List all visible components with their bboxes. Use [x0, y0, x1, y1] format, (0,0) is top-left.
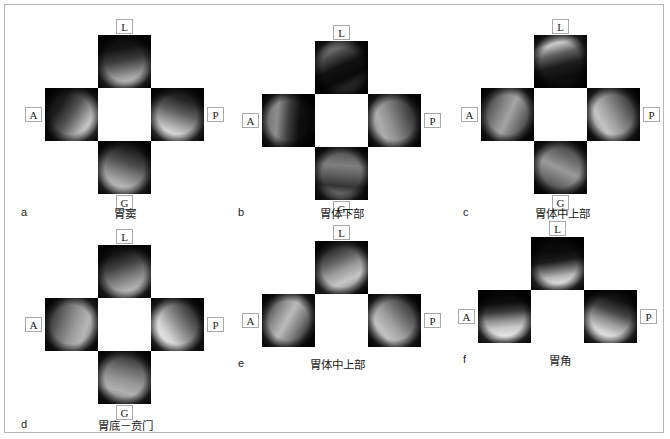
panel-f-letter: f — [463, 353, 466, 365]
panel-c-image-left — [481, 88, 534, 141]
panel-a-label-P: P — [207, 107, 224, 122]
panel-d-caption: 胃底－贲门 — [60, 417, 190, 433]
panel-f-label-A: A — [458, 309, 475, 324]
panel-b-label-P: P — [424, 113, 441, 128]
panel-d-image-bottom — [98, 351, 151, 404]
panel-d-label-P: P — [207, 317, 224, 332]
panel-e-center-blank — [315, 294, 368, 347]
panel-f-label-P: P — [640, 309, 657, 324]
panel-a-image-bottom — [98, 141, 151, 194]
panel-a-caption: 胃窦 — [65, 205, 185, 221]
panel-e-image-top — [315, 241, 368, 294]
panel-d-image-left — [45, 298, 98, 351]
panel-b-label-L: L — [333, 25, 350, 40]
panel-e-label-P: P — [424, 313, 441, 328]
panel-c-label-P: P — [643, 107, 660, 122]
panel-e-image-right — [368, 294, 421, 347]
panel-b-caption: 胃体下部 — [282, 205, 402, 221]
panel-a: L A P G a 胃窦 — [5, 5, 230, 223]
panel-d-image-right — [151, 298, 204, 351]
panel-c: L A P G c 胃体中上部 — [455, 5, 665, 223]
panel-e-caption: 胃体中上部 — [272, 356, 402, 372]
panel-b-center-blank — [315, 94, 368, 147]
panel-a-center-blank — [98, 88, 151, 141]
panel-f-image-right — [584, 290, 637, 343]
panel-c-image-top — [534, 35, 587, 88]
panel-d-label-L: L — [116, 229, 133, 244]
panel-c-label-L: L — [552, 19, 569, 34]
panel-f-image-top — [531, 237, 584, 290]
panel-d-letter: d — [21, 418, 27, 430]
panel-f: L A P f 胃角 — [455, 223, 665, 434]
panel-b-image-bottom — [315, 147, 368, 200]
figure-frame: L A P G a 胃窦 L A P G b — [4, 4, 664, 433]
panel-c-letter: c — [463, 206, 469, 218]
panel-f-center-blank — [531, 290, 584, 343]
panel-c-image-bottom — [534, 141, 587, 194]
panel-a-image-right — [151, 88, 204, 141]
panel-e: L A P e 胃体中上部 — [230, 223, 455, 434]
panel-a-letter: a — [21, 206, 27, 218]
panel-b-image-right — [368, 94, 421, 147]
panel-d: L A P G d 胃底－贲门 — [5, 223, 230, 434]
panel-b-image-left — [262, 94, 315, 147]
panel-e-letter: e — [238, 357, 244, 369]
panel-b: L A P G b 胃体下部 — [230, 5, 455, 223]
panel-d-center-blank — [98, 298, 151, 351]
panel-c-caption: 胃体中上部 — [497, 205, 627, 221]
panel-c-center-blank — [534, 88, 587, 141]
panel-a-image-top — [98, 35, 151, 88]
panel-d-label-A: A — [25, 317, 42, 332]
panel-e-label-L: L — [333, 225, 350, 240]
panel-f-caption: 胃角 — [505, 352, 615, 368]
panel-b-image-top — [315, 41, 368, 94]
panel-e-image-left — [262, 294, 315, 347]
panel-d-image-top — [98, 245, 151, 298]
panel-c-image-right — [587, 88, 640, 141]
panel-a-label-L: L — [116, 19, 133, 34]
panel-e-label-A: A — [242, 313, 259, 328]
panel-f-label-L: L — [549, 221, 566, 236]
panel-a-image-left — [45, 88, 98, 141]
panel-f-image-left — [478, 290, 531, 343]
panel-b-letter: b — [238, 206, 244, 218]
panel-a-label-A: A — [25, 107, 42, 122]
panel-b-label-A: A — [242, 113, 259, 128]
panel-c-label-A: A — [461, 107, 478, 122]
